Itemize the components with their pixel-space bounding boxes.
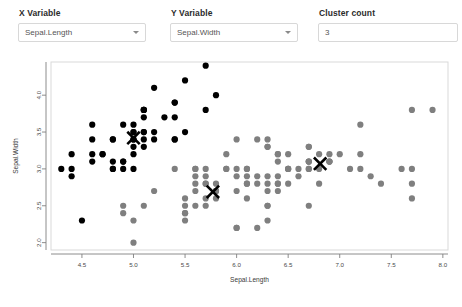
y-variable-value: Sepal.Width [177, 28, 281, 37]
data-point [378, 181, 384, 187]
data-point [203, 173, 209, 179]
data-point [182, 217, 188, 223]
data-point [69, 151, 75, 157]
data-point [244, 181, 250, 187]
data-point [120, 166, 126, 172]
data-point [89, 151, 95, 157]
data-point [244, 195, 250, 201]
data-point [409, 195, 415, 201]
data-point [368, 173, 374, 179]
data-point [172, 114, 178, 120]
data-point [130, 240, 136, 246]
y-variable-label: Y Variable [171, 8, 298, 18]
x-tick-label: 6.0 [232, 261, 241, 268]
cluster-count-value: 3 [325, 28, 451, 37]
data-point [58, 166, 64, 172]
data-point [306, 203, 312, 209]
data-point [347, 166, 353, 172]
data-point [141, 107, 147, 113]
data-point [89, 136, 95, 142]
data-point [192, 188, 198, 194]
data-point [399, 166, 405, 172]
data-point [203, 203, 209, 209]
data-point [275, 158, 281, 164]
x-variable-control: X Variable Sepal.Length [18, 8, 146, 42]
data-point [141, 203, 147, 209]
x-tick-label: 8.0 [439, 261, 448, 268]
x-tick-label: 5.0 [129, 261, 138, 268]
data-point [409, 181, 415, 187]
data-point [120, 203, 126, 209]
data-point [141, 114, 147, 120]
x-tick-label: 7.5 [387, 261, 396, 268]
data-point [89, 122, 95, 128]
data-point [182, 77, 188, 83]
data-point [264, 136, 270, 142]
data-point [264, 217, 270, 223]
data-point [151, 188, 157, 194]
data-point [130, 122, 136, 128]
data-point [275, 151, 281, 157]
data-point [203, 107, 209, 113]
data-point [120, 210, 126, 216]
data-point [306, 144, 312, 150]
y-tick-label: 2.0 [35, 238, 42, 247]
chevron-down-icon [285, 31, 291, 34]
data-point [69, 166, 75, 172]
data-point [89, 158, 95, 164]
data-point [110, 158, 116, 164]
x-tick-label: 4.5 [78, 261, 87, 268]
data-point [244, 173, 250, 179]
data-point [264, 188, 270, 194]
x-tick-label: 7.0 [335, 261, 344, 268]
data-point [130, 151, 136, 157]
data-point [254, 181, 260, 187]
data-point [223, 166, 229, 172]
data-point [316, 151, 322, 157]
data-point [409, 107, 415, 113]
data-point [264, 203, 270, 209]
x-variable-label: X Variable [19, 8, 146, 18]
data-point [234, 225, 240, 231]
y-tick-label: 2.5 [35, 201, 42, 210]
y-tick-label: 3.5 [35, 127, 42, 136]
data-point [192, 173, 198, 179]
data-point [120, 122, 126, 128]
x-tick-label: 5.5 [181, 261, 190, 268]
data-point [79, 217, 85, 223]
data-point [306, 166, 312, 172]
data-point [234, 188, 240, 194]
y-tick-label: 4.0 [35, 90, 42, 99]
data-point [141, 136, 147, 142]
data-point [172, 166, 178, 172]
data-point [264, 173, 270, 179]
data-point [223, 151, 229, 157]
data-point [295, 166, 301, 172]
data-point [326, 158, 332, 164]
data-point [172, 136, 178, 142]
y-variable-select[interactable]: Sepal.Width [170, 23, 298, 42]
data-point [182, 203, 188, 209]
data-point [151, 85, 157, 91]
data-point [337, 151, 343, 157]
data-point [182, 129, 188, 135]
data-point [192, 203, 198, 209]
chevron-down-icon [133, 31, 139, 34]
data-point [285, 166, 291, 172]
data-point [130, 217, 136, 223]
data-point [357, 122, 363, 128]
x-axis-title: Sepal.Length [230, 276, 269, 284]
data-point [244, 166, 250, 172]
cluster-count-input[interactable]: 3 [318, 23, 458, 42]
x-variable-select[interactable]: Sepal.Length [18, 23, 146, 42]
data-point [161, 114, 167, 120]
data-point [234, 136, 240, 142]
data-point [69, 173, 75, 179]
plot-panel [51, 62, 448, 250]
data-point [254, 136, 260, 142]
data-point [316, 181, 322, 187]
data-point [275, 188, 281, 194]
data-point [192, 166, 198, 172]
data-point [357, 166, 363, 172]
data-point [409, 166, 415, 172]
